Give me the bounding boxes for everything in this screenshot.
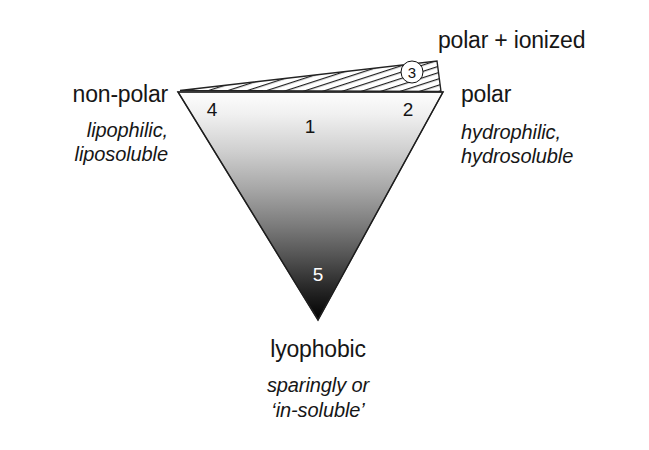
zone-number-2: 2	[403, 99, 414, 121]
label-polar-ionized: polar + ionized	[438, 27, 585, 54]
label-hydrophilic: hydrophilic,	[461, 121, 561, 145]
zone-number-5: 5	[313, 264, 324, 286]
label-polar: polar	[461, 81, 511, 108]
label-in-soluble: ‘in-soluble’	[271, 399, 364, 423]
diagram-canvas: 4 1 2 5 3 non-polar lipophilic, liposolu…	[0, 0, 649, 450]
label-sparingly-or: sparingly or	[267, 374, 369, 398]
label-liposoluble: liposoluble	[75, 143, 168, 167]
label-hydrosoluble: hydrosoluble	[461, 145, 573, 169]
label-non-polar: non-polar	[73, 81, 168, 108]
label-lyophobic: lyophobic	[270, 336, 365, 363]
zone-number-1: 1	[305, 116, 316, 138]
zone-number-4: 4	[207, 99, 218, 121]
label-lipophilic: lipophilic,	[87, 119, 168, 143]
zone-number-3-circled: 3	[401, 61, 424, 84]
